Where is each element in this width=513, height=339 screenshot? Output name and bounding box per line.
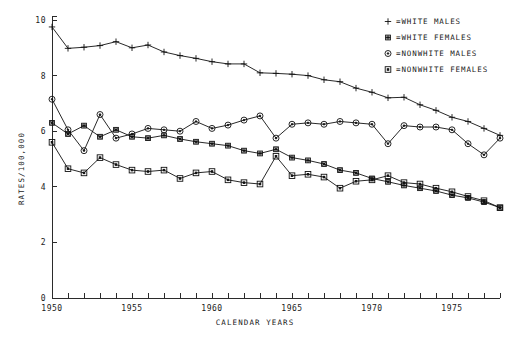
x-tick-label: 1950 [41, 304, 62, 313]
data-point-marker [65, 45, 71, 51]
legend-label: =WHITE FEMALES [396, 33, 472, 42]
x-tick-label: 1975 [441, 304, 462, 313]
data-point-marker [481, 152, 487, 158]
legend-label: =NONWHITE FEMALES [396, 65, 488, 74]
x-tick-label: 1965 [281, 304, 302, 313]
data-point-marker [321, 77, 327, 83]
y-tick-label: 2 [41, 238, 46, 247]
data-point-marker [257, 70, 263, 76]
x-tick-label: 1970 [361, 304, 382, 313]
data-point-marker [114, 127, 119, 132]
y-axis-title: RATES/100,000 [17, 132, 26, 205]
y-tick-label: 8 [41, 72, 46, 81]
data-point-marker [289, 71, 295, 77]
x-tick-labels: 195019551960196519701975 [41, 304, 462, 313]
data-point-marker [290, 155, 295, 160]
data-point-marker [226, 143, 231, 148]
data-point-marker [50, 120, 55, 125]
data-point-marker [273, 70, 279, 76]
data-point-marker [386, 179, 391, 184]
y-tick-labels: 0246810 [35, 16, 46, 303]
legend-label: =NONWHITE MALES [396, 49, 477, 58]
data-point-marker [146, 136, 151, 141]
data-point-marker [449, 114, 455, 120]
data-point-marker [241, 117, 247, 123]
data-point-marker [257, 113, 263, 119]
data-point-marker [386, 35, 391, 40]
data-point-marker [401, 94, 407, 100]
series-polyline [52, 27, 500, 135]
data-point-marker [193, 118, 199, 124]
data-point-marker [81, 148, 87, 154]
data-point-marker [113, 38, 119, 44]
data-point-marker [161, 49, 167, 55]
x-tick-label: 1955 [121, 304, 142, 313]
data-point-marker [385, 18, 391, 24]
data-point-marker [97, 42, 103, 48]
data-point-marker [209, 59, 215, 65]
data-point-marker [465, 141, 471, 147]
x-axis-title: CALENDAR YEARS [216, 318, 295, 327]
data-point-marker [97, 112, 103, 118]
data-point-marker [385, 67, 391, 73]
data-point-marker [385, 173, 391, 179]
data-point-marker [162, 133, 167, 138]
data-point-marker [305, 72, 311, 78]
legend-item-nonwhite-males: =NONWHITE MALES [385, 49, 477, 58]
data-point-marker [242, 148, 247, 153]
data-point-marker [306, 158, 311, 163]
data-point-marker [178, 137, 183, 142]
chart-legend: =WHITE MALES=WHITE FEMALES=NONWHITE MALE… [385, 17, 488, 74]
data-point-marker [353, 85, 359, 91]
data-point-marker [145, 42, 151, 48]
data-point-marker [194, 139, 199, 144]
data-point-marker [322, 162, 327, 167]
data-point-marker [385, 51, 391, 57]
data-point-marker [98, 134, 103, 139]
data-point-marker [193, 55, 199, 61]
x-tick-label: 1960 [201, 304, 222, 313]
data-point-marker [82, 123, 87, 128]
data-point-marker [49, 24, 55, 30]
data-point-marker [81, 44, 87, 50]
data-point-marker [433, 107, 439, 113]
y-tick-label: 6 [41, 127, 46, 136]
legend-item-nonwhite-females: =NONWHITE FEMALES [385, 65, 488, 74]
legend-item-white-males: =WHITE MALES [385, 17, 461, 26]
y-tick-label: 4 [41, 183, 46, 192]
data-point-marker [177, 176, 183, 182]
data-point-marker [241, 61, 247, 67]
data-point-marker [274, 147, 279, 152]
data-point-marker [113, 162, 119, 168]
data-point-marker [481, 125, 487, 131]
data-point-marker [354, 171, 359, 176]
data-point-marker [273, 135, 279, 141]
chart-figure: 0246810 195019551960196519701975 RATES/1… [0, 0, 513, 339]
data-point-marker [225, 61, 231, 67]
data-point-marker [210, 141, 215, 146]
legend-item-white-females: =WHITE FEMALES [386, 33, 472, 42]
data-point-marker [337, 79, 343, 85]
data-point-marker [385, 95, 391, 101]
data-point-marker [385, 141, 391, 147]
data-point-marker [337, 185, 343, 191]
data-point-marker [258, 151, 263, 156]
data-point-marker [177, 52, 183, 58]
data-point-marker [450, 193, 455, 198]
data-point-marker [129, 45, 135, 51]
data-point-marker [338, 168, 343, 173]
legend-label: =WHITE MALES [396, 17, 461, 26]
data-point-marker [417, 102, 423, 108]
data-point-marker [465, 118, 471, 124]
data-point-marker [113, 135, 119, 141]
data-point-marker [369, 89, 375, 95]
y-tick-label: 0 [41, 294, 46, 303]
y-tick-label: 10 [35, 16, 46, 25]
data-point-marker [65, 166, 71, 172]
line-chart-canvas: 0246810 195019551960196519701975 RATES/1… [0, 0, 513, 339]
